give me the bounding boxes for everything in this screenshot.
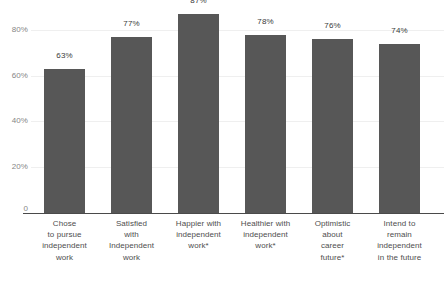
- x-category-label-line: Independent: [98, 240, 165, 251]
- x-category-label-line: independent: [232, 229, 299, 240]
- y-tick-label-80: 80%: [0, 26, 28, 34]
- table-row[interactable]: [111, 37, 152, 213]
- x-category-label-line: independent: [31, 240, 98, 251]
- bar-slot: 76%: [299, 8, 366, 213]
- table-row[interactable]: [245, 35, 286, 213]
- x-category-label-line: work: [98, 252, 165, 263]
- x-category-label-line: in the future: [366, 252, 433, 263]
- x-category-label-line: to pursue: [31, 229, 98, 240]
- bar-value-label: 87%: [165, 0, 232, 5]
- y-tick-label-40: 40%: [0, 117, 28, 125]
- x-category-label-line: Healthier with: [232, 218, 299, 229]
- x-category-label: Chose to pursue independent work: [31, 218, 98, 263]
- y-tick-label-0: 0: [0, 205, 28, 213]
- y-axis: 80% 60% 40% 20% 0: [0, 0, 28, 282]
- table-row[interactable]: [379, 44, 420, 213]
- bar-value-label: 63%: [31, 51, 98, 60]
- x-category-label-line: independent: [165, 229, 232, 240]
- x-category-label-line: work: [31, 252, 98, 263]
- y-tick-label-20: 20%: [0, 163, 28, 171]
- x-category-label-line: Happier with: [165, 218, 232, 229]
- table-row[interactable]: [44, 69, 85, 213]
- x-category-label-line: work*: [232, 240, 299, 251]
- table-row[interactable]: [178, 14, 219, 213]
- x-category-label-line: work*: [165, 240, 232, 251]
- x-axis: Chose to pursue independent work Satisfi…: [31, 218, 444, 282]
- bar-slot: 74%: [366, 8, 433, 213]
- x-category-label-line: career: [299, 240, 366, 251]
- bar-value-label: 76%: [299, 21, 366, 30]
- x-category-label-line: independent: [366, 240, 433, 251]
- x-axis-line: [23, 213, 444, 214]
- bar-value-label: 78%: [232, 17, 299, 26]
- x-category-label-line: Satisfied: [98, 218, 165, 229]
- x-category-label-line: with: [98, 229, 165, 240]
- x-category-label-line: Optimistic: [299, 218, 366, 229]
- x-category-label: Happier with independent work*: [165, 218, 232, 252]
- table-row[interactable]: [312, 39, 353, 213]
- bar-chart: 80% 60% 40% 20% 0 63% 77% 87% 78% 76%: [0, 0, 444, 282]
- x-category-label-line: remain: [366, 229, 433, 240]
- bar-slot: 87%: [165, 8, 232, 213]
- plot-area: 63% 77% 87% 78% 76% 74%: [31, 8, 444, 213]
- y-tick-label-60: 60%: [0, 72, 28, 80]
- x-category-label-line: about: [299, 229, 366, 240]
- x-category-label-line: future*: [299, 252, 366, 263]
- bar-slot: 77%: [98, 8, 165, 213]
- bar-slot: 78%: [232, 8, 299, 213]
- bar-value-label: 74%: [366, 26, 433, 35]
- bar-slot: 63%: [31, 8, 98, 213]
- x-category-label: Optimistic about career future*: [299, 218, 366, 263]
- bar-value-label: 77%: [98, 19, 165, 28]
- x-category-label-line: Chose: [31, 218, 98, 229]
- x-category-label: Satisfied with Independent work: [98, 218, 165, 263]
- x-category-label: Healthier with independent work*: [232, 218, 299, 252]
- x-category-label-line: Intend to: [366, 218, 433, 229]
- x-category-label: Intend to remain independent in the futu…: [366, 218, 433, 263]
